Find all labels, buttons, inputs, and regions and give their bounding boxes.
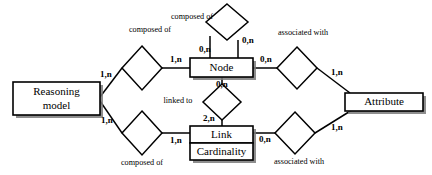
relationship-diamond-associated-with-upper[interactable] [277,47,317,89]
relationship-label-linked-to: linked to [164,96,193,105]
entity-reasoning-model-label-line2: model [43,99,71,111]
cardinality-node-to-assoc-right: 0,n [260,54,272,64]
cardinality-attribute-upper: 1,n [331,67,343,77]
er-diagram-canvas: Reasoning model Node Link Cardinality At… [0,0,432,175]
entity-reasoning-model[interactable]: Reasoning model [13,82,103,118]
er-diagram-svg: Reasoning model Node Link Cardinality At… [0,0,432,175]
relationship-label-associated-with-lower: associated with [274,157,324,166]
relationship-label-associated-with-upper: associated with [278,28,328,37]
cardinality-rm-to-composed-upper: 1,n [100,69,112,79]
entity-attribute-label: Attribute [364,95,404,107]
cardinality-attribute-lower: 1,n [331,122,343,132]
entity-reasoning-model-label-line1: Reasoning [33,85,80,97]
cardinality-node-self-right: 0,n [242,35,254,45]
entity-link[interactable]: Link Cardinality [190,126,256,163]
entity-node[interactable]: Node [190,58,256,80]
cardinality-node-to-composed-left: 1,n [170,54,182,64]
entity-link-cardinality-label: Cardinality [197,145,247,157]
relationship-label-composed-of-lower-left: composed of [121,158,163,167]
relationship-label-composed-of-upper-left: composed of [129,25,171,34]
cardinality-link-to-composed-left: 1,n [170,135,182,145]
entity-link-label: Link [211,128,232,140]
cardinality-link-top: 2,n [203,113,215,123]
relationship-diamond-composed-of-lower-left[interactable] [122,111,162,155]
cardinality-rm-to-composed-lower: 1,n [101,115,113,125]
entity-node-label: Node [210,61,234,73]
cardinality-node-bottom: 0,n [216,79,228,89]
relationship-label-composed-of-top: composed of [171,12,213,21]
relationship-diamond-composed-of-upper-left[interactable] [122,46,162,90]
cardinality-link-to-assoc-right: 0,n [259,134,271,144]
entity-attribute[interactable]: Attribute [345,93,426,114]
relationship-diamond-associated-with-lower[interactable] [275,112,315,154]
cardinality-node-top: 0,n [199,44,211,54]
